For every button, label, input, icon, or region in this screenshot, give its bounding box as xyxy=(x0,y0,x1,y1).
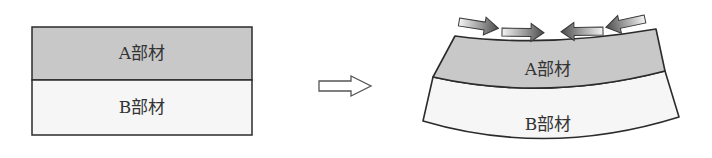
layer-b-after-label: B部材 xyxy=(525,114,572,134)
diagram-canvas: A部材 B部材 A部材 B部材 xyxy=(0,0,712,158)
after-laminate: A部材 B部材 xyxy=(423,29,679,139)
compression-arrow-icon xyxy=(502,23,544,42)
compression-arrow-icon xyxy=(458,13,500,37)
layer-a-after-label: A部材 xyxy=(524,59,571,79)
layer-b-before-label: B部材 xyxy=(119,97,166,117)
layer-a-before-label: A部材 xyxy=(118,43,165,63)
before-laminate: A部材 B部材 xyxy=(32,27,252,135)
hollow-right-arrow-icon xyxy=(319,76,371,96)
